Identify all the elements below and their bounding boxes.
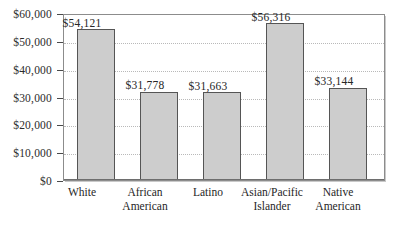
category-label-native-american: Native American (296, 186, 380, 213)
bar-asian-pacific-islander (266, 23, 304, 180)
y-tick-label-40000: $40,000 (0, 65, 52, 77)
y-tick-label-50000: $50,000 (0, 37, 52, 49)
value-label-native-american: $33,144 (300, 76, 368, 88)
value-label-latino: $31,663 (174, 81, 242, 93)
y-tick-label-10000: $10,000 (0, 148, 52, 160)
bar-latino (203, 92, 241, 180)
plot-area (63, 14, 385, 181)
bar-white (77, 29, 115, 180)
category-label-line: American (296, 200, 380, 214)
y-tick-label-30000: $30,000 (0, 93, 52, 105)
value-label-white: $54,121 (48, 18, 116, 30)
y-tick-label-20000: $20,000 (0, 120, 52, 132)
value-label-asian-pacific-islander: $56,316 (237, 12, 305, 24)
bar-chart: $60,000 $50,000 $40,000 $30,000 $20,000 … (0, 0, 398, 226)
y-tick-label-60000: $60,000 (0, 9, 52, 21)
y-tick-mark-0 (57, 181, 63, 182)
category-label-line: Native (296, 186, 380, 200)
bar-african-american (140, 92, 178, 180)
value-label-african-american: $31,778 (111, 80, 179, 92)
x-axis-baseline (64, 179, 384, 180)
bar-native-american (329, 88, 367, 180)
category-label-line: American (105, 200, 185, 214)
